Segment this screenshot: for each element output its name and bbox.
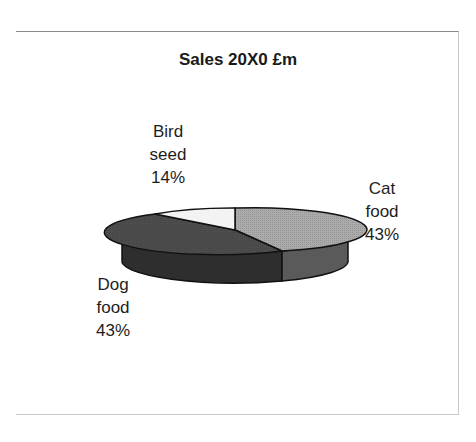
label-line: Cat: [352, 177, 412, 200]
data-label-bird-seed: Bird seed 14%: [138, 120, 198, 189]
label-line: seed: [138, 143, 198, 166]
label-line: Dog: [88, 273, 138, 296]
label-pct: 43%: [88, 319, 138, 342]
label-line: Bird: [138, 120, 198, 143]
data-label-cat-food: Cat food 43%: [352, 177, 412, 246]
label-pct: 43%: [352, 223, 412, 246]
label-line: food: [352, 200, 412, 223]
label-pct: 14%: [138, 166, 198, 189]
data-label-dog-food: Dog food 43%: [88, 273, 138, 342]
label-line: food: [88, 296, 138, 319]
